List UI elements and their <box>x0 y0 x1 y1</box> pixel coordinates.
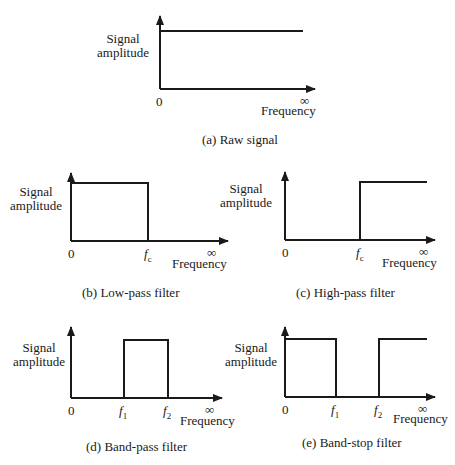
panel-d-y-label: Signalamplitude <box>13 341 65 369</box>
panel-d-signal <box>124 340 168 398</box>
panel-b-y-label: Signalamplitude <box>10 185 62 213</box>
panel-c-marker-fc: fc <box>356 246 364 265</box>
y-label-line1: Signal <box>106 31 139 46</box>
panel-e-caption: (e) Band-stop filter <box>302 436 402 450</box>
panel-a-x-label: Frequency <box>261 104 316 118</box>
panel-d-marker-f2: f2 <box>163 404 171 423</box>
panel-e-origin: 0 <box>282 403 289 417</box>
y-label-line2: amplitude <box>97 45 149 60</box>
marker-sub: 1 <box>123 411 128 421</box>
marker-sub: c <box>148 254 152 264</box>
panel-a-axes <box>160 16 315 89</box>
panel-b-marker-fc: fc <box>144 247 152 266</box>
y-label-line2: amplitude <box>220 195 272 210</box>
panel-c-origin: 0 <box>282 246 289 260</box>
panel-a-origin: 0 <box>156 95 163 109</box>
y-label-line1: Signal <box>19 184 52 199</box>
panel-d-caption: (d) Band-pass filter <box>86 440 187 454</box>
marker-sub: 2 <box>167 411 172 421</box>
panel-e-signal <box>285 339 336 397</box>
panel-c-caption: (c) High-pass filter <box>296 286 395 300</box>
panel-d-x-label: Frequency <box>180 414 235 428</box>
panel-c-signal <box>360 182 427 240</box>
panel-d-origin: 0 <box>68 404 75 418</box>
marker-sub: 1 <box>335 410 340 420</box>
panel-a-y-label: Signalamplitude <box>97 32 149 60</box>
panel-d-marker-f1: f1 <box>119 404 127 423</box>
marker-sub: c <box>360 253 364 263</box>
y-label-line1: Signal <box>234 340 267 355</box>
panel-c-x-label: Frequency <box>382 256 437 270</box>
panel-b-origin: 0 <box>68 247 75 261</box>
panel-c-y-label: Signalamplitude <box>220 182 272 210</box>
panel-e-x-label: Frequency <box>393 412 448 426</box>
y-label-line1: Signal <box>22 340 55 355</box>
panel-b-signal <box>71 183 148 241</box>
panel-e-marker-f1: f1 <box>331 403 339 422</box>
y-label-line2: amplitude <box>10 198 62 213</box>
panel-e-y-label: Signalamplitude <box>225 341 277 369</box>
filter-diagram-graphics <box>0 0 455 465</box>
y-label-line2: amplitude <box>225 354 277 369</box>
y-label-line1: Signal <box>229 181 262 196</box>
y-label-line2: amplitude <box>13 354 65 369</box>
marker-sub: 2 <box>378 410 383 420</box>
panel-a-caption: (a) Raw signal <box>202 133 278 147</box>
panel-b-x-label: Frequency <box>172 257 227 271</box>
panel-e-marker-f2: f2 <box>374 403 382 422</box>
panel-b-caption: (b) Low-pass filter <box>82 286 179 300</box>
